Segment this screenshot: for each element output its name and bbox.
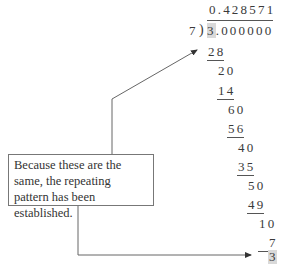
callout-box: Because these are the same, the repeatin… (8, 154, 154, 206)
arrows (0, 0, 292, 271)
division-bracket: ) (199, 23, 206, 37)
step-underline (237, 175, 254, 176)
step-14: 14 (218, 84, 235, 98)
step-underline (227, 137, 244, 138)
dividend-rest: .000000 (216, 23, 274, 38)
vinculum (207, 20, 273, 21)
step-40: 40 (238, 141, 255, 155)
arrow-to-bottom-3 (78, 206, 251, 255)
step-underline (207, 60, 224, 61)
step-49: 49 (248, 198, 265, 212)
step-20: 20 (218, 64, 235, 78)
dividend: 3.000000 (207, 24, 273, 38)
step-50: 50 (248, 179, 265, 193)
step-underline (217, 99, 234, 100)
quotient: 0.428571 (209, 3, 275, 17)
step-underline (247, 213, 264, 214)
step-10: 10 (259, 217, 276, 231)
step-28: 28 (208, 45, 225, 59)
step-35: 35 (238, 160, 255, 174)
divisor: 7 (189, 24, 198, 38)
step-7: 7 (269, 236, 278, 250)
dividend-first-digit: 3 (207, 23, 216, 38)
step-60: 60 (228, 103, 245, 117)
final-remainder-3: 3 (268, 250, 277, 264)
arrow-to-top-3 (112, 50, 197, 154)
step-56: 56 (228, 122, 245, 136)
